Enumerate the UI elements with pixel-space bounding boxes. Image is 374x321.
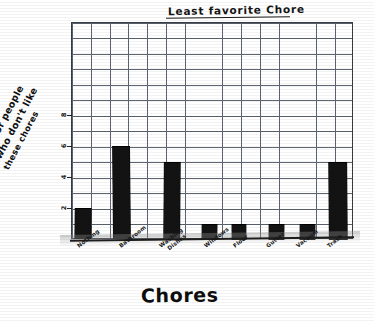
bar-trash [329,161,348,239]
y-tick-mark-2 [67,208,72,209]
chart-title: Least favorite Chore [168,3,305,17]
bar-bathroom [113,146,131,239]
x-axis-title: Chores [141,284,219,307]
chart-canvas: Least favorite Chore 2468 # of people wh… [0,0,374,321]
